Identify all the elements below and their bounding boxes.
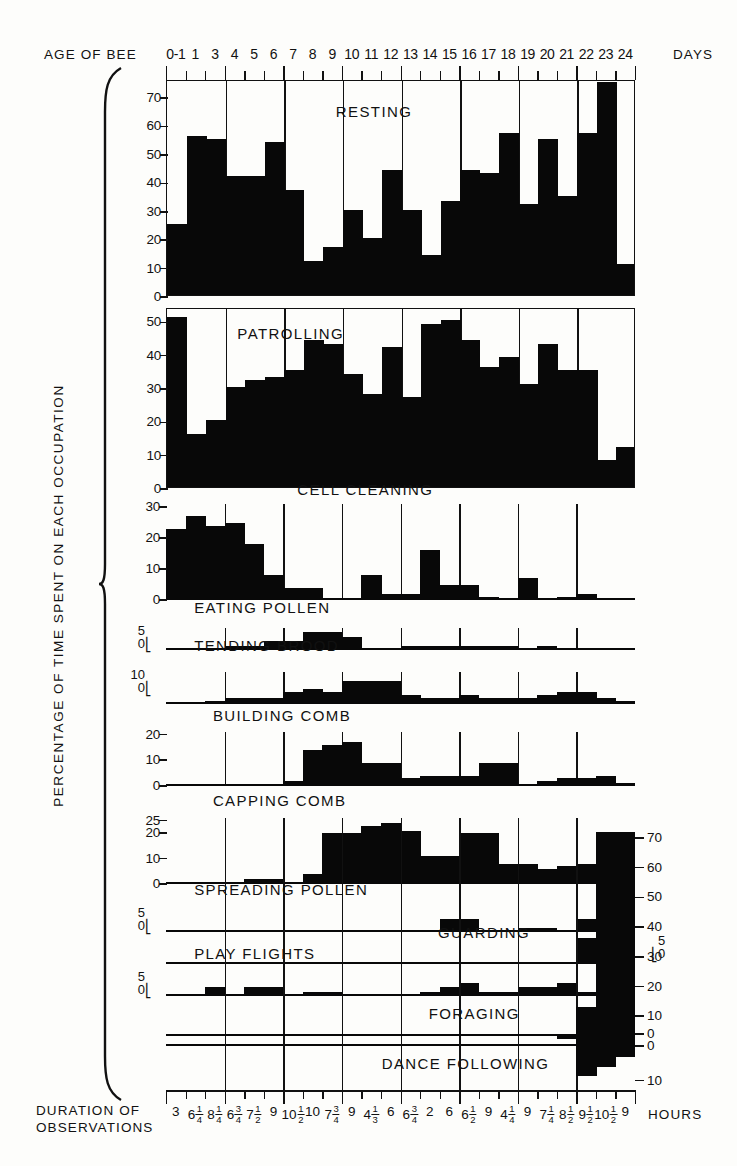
panel-label: EATING POLLEN — [194, 599, 330, 616]
duration-label: 712 — [246, 1104, 261, 1124]
bar — [264, 698, 284, 704]
day-tick-label: 8 — [309, 46, 316, 62]
bar — [460, 170, 480, 295]
day-tick-label: 18 — [501, 46, 516, 62]
duration-label: 614 — [188, 1104, 203, 1124]
duration-label: 1012 — [594, 1104, 617, 1124]
y-tick-label: 0 — [154, 481, 161, 496]
panel-foraging: 010203040506070FORAGING — [166, 820, 635, 1046]
day-tick-label: 15 — [442, 46, 457, 62]
bar — [557, 597, 577, 600]
panel-patrolling: 01020304050PATROLLING — [166, 308, 635, 488]
top-axis-title: AGE OF BEE — [44, 47, 137, 62]
bar — [381, 681, 401, 704]
y-tick-label: 30 — [147, 381, 161, 396]
bar — [322, 1034, 342, 1036]
bar — [459, 695, 479, 704]
duration-tick — [225, 1090, 226, 1104]
bar — [322, 692, 342, 704]
duration-tick — [479, 1090, 480, 1099]
y-tick-mark — [635, 867, 644, 869]
top-axis-tick — [576, 66, 577, 80]
bar — [382, 347, 402, 487]
bar — [480, 173, 500, 295]
bar — [479, 1034, 499, 1036]
bar — [616, 447, 634, 487]
y-tick-label: 10 — [147, 261, 161, 276]
bar — [557, 1034, 577, 1039]
bar — [538, 139, 558, 295]
bar — [264, 784, 284, 786]
bar — [166, 1034, 186, 1036]
bar — [460, 340, 480, 487]
bar — [187, 434, 207, 487]
y-tick-label: 50 — [147, 147, 161, 162]
bar — [166, 784, 186, 786]
y-tick-mark — [160, 183, 168, 185]
day-tick-label: 14 — [422, 46, 437, 62]
duration-tick — [342, 1090, 343, 1104]
bar — [537, 781, 557, 786]
bar — [537, 598, 557, 600]
bar — [440, 1034, 460, 1036]
duration-tick — [420, 1090, 421, 1099]
y-tick-mark — [160, 322, 168, 324]
duration-label: 413 — [364, 1104, 379, 1124]
plot-area — [166, 732, 635, 786]
bar — [381, 648, 401, 650]
y-tick-label: 0 — [153, 876, 160, 891]
duration-label: 912 — [578, 1104, 593, 1124]
bar — [186, 702, 206, 704]
bar — [323, 344, 343, 487]
bar — [264, 1034, 284, 1036]
day-tick-label: 17 — [481, 46, 496, 62]
y-tick-label: 0 — [153, 778, 160, 793]
bar — [537, 646, 557, 650]
y-tick-mark — [160, 154, 168, 156]
y-tick-label: 20 — [147, 232, 161, 247]
y-tick-mark — [160, 268, 168, 270]
bar — [597, 460, 617, 487]
duration-tick — [557, 1090, 558, 1099]
bar — [499, 133, 519, 295]
y-tick-label: 30 — [146, 499, 160, 514]
duration-tick — [596, 1090, 597, 1099]
bar — [440, 646, 460, 650]
top-axis-tick — [361, 71, 362, 80]
bar — [303, 689, 323, 704]
y-tick-label: 10 — [647, 1008, 662, 1023]
bar — [205, 701, 225, 704]
y-tick-mark — [159, 599, 167, 601]
bar — [401, 594, 421, 600]
day-tick-label: 19 — [520, 46, 535, 62]
bar — [303, 750, 323, 786]
bar — [283, 781, 303, 786]
bar — [166, 702, 186, 704]
plot-area — [166, 820, 635, 1046]
bar — [519, 384, 539, 487]
y-tick-mark — [160, 455, 168, 457]
bar — [615, 648, 635, 650]
duration-label: 812 — [559, 1104, 574, 1124]
duration-label: 9 — [485, 1104, 493, 1119]
gridline — [576, 504, 578, 600]
bottom-axis-title-line1: DURATION OF — [36, 1102, 153, 1119]
y-tick-label: 50 — [147, 315, 161, 330]
bar — [596, 598, 616, 600]
duration-tick — [576, 1090, 577, 1104]
gridline — [401, 504, 403, 600]
top-axis-tick — [166, 66, 167, 80]
bar — [225, 698, 245, 704]
bar — [440, 585, 460, 600]
bar — [205, 526, 225, 600]
top-axis-tick — [186, 71, 187, 80]
bar — [361, 575, 381, 600]
bar — [361, 648, 381, 650]
bar — [459, 1034, 479, 1036]
day-tick-label: 20 — [540, 46, 555, 62]
bar — [186, 516, 206, 600]
top-axis-tick — [479, 71, 480, 80]
bar — [537, 695, 557, 704]
duration-tick — [166, 1090, 167, 1104]
bar — [264, 575, 284, 600]
